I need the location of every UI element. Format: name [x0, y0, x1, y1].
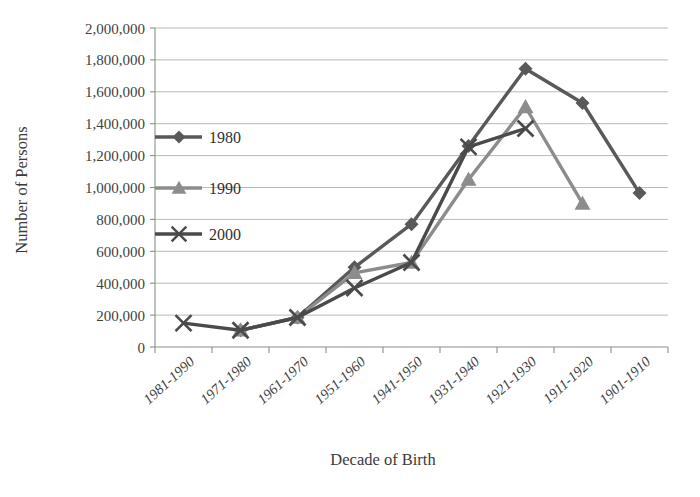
y-tick-label: 0 [138, 340, 146, 356]
legend-item-1990[interactable]: 1990 [155, 180, 241, 197]
data-point-marker [518, 120, 534, 136]
legend-label: 1980 [209, 129, 241, 146]
gridlines-group [155, 28, 668, 315]
y-tick-label: 800,000 [96, 212, 145, 228]
y-axis-ticks-group [150, 28, 155, 347]
y-tick-label: 600,000 [96, 244, 145, 260]
y-axis-tick-labels-group: 0200,000400,000600,000800,0001,000,0001,… [85, 21, 145, 356]
y-tick-label: 1,000,000 [85, 180, 145, 196]
y-tick-label: 1,800,000 [85, 52, 145, 68]
x-category-label: 1931-1940 [425, 353, 483, 407]
data-series-group [176, 62, 647, 339]
x-category-label: 1971-1980 [197, 353, 255, 407]
legend-label: 1990 [209, 180, 241, 197]
x-category-label: 1911-1920 [540, 353, 597, 407]
legend-item-1980[interactable]: 1980 [155, 129, 241, 146]
x-axis-ticks-group [155, 347, 668, 353]
data-point-marker [347, 280, 363, 296]
x-category-label: 1961-1970 [254, 353, 312, 407]
y-tick-label: 1,400,000 [85, 116, 145, 132]
legend-group: 198019902000 [155, 129, 241, 243]
x-category-label: 1951-1960 [311, 353, 369, 407]
y-tick-label: 400,000 [96, 276, 145, 292]
chart-canvas: 0200,000400,000600,000800,0001,000,0001,… [0, 0, 700, 497]
legend-item-2000[interactable]: 2000 [155, 226, 241, 243]
y-axis-title: Number of Persons [12, 126, 31, 253]
line-chart: 0200,000400,000600,000800,0001,000,0001,… [0, 0, 700, 497]
x-category-label: 1941-1950 [368, 353, 426, 407]
data-point-marker [518, 99, 534, 113]
y-tick-label: 200,000 [96, 308, 145, 324]
legend-label: 2000 [209, 226, 241, 243]
x-category-label: 1981-1990 [140, 353, 198, 407]
y-tick-label: 1,200,000 [85, 148, 145, 164]
y-tick-label: 1,600,000 [85, 84, 145, 100]
x-category-label: 1921-1930 [482, 353, 540, 407]
data-point-marker [173, 131, 186, 144]
x-axis-category-labels-group: 1981-19901971-19801961-19701951-19601941… [140, 353, 654, 407]
data-point-marker [575, 195, 591, 209]
x-axis-title: Decade of Birth [330, 450, 436, 469]
y-tick-label: 2,000,000 [85, 21, 145, 37]
x-category-label: 1901-1910 [596, 353, 654, 407]
